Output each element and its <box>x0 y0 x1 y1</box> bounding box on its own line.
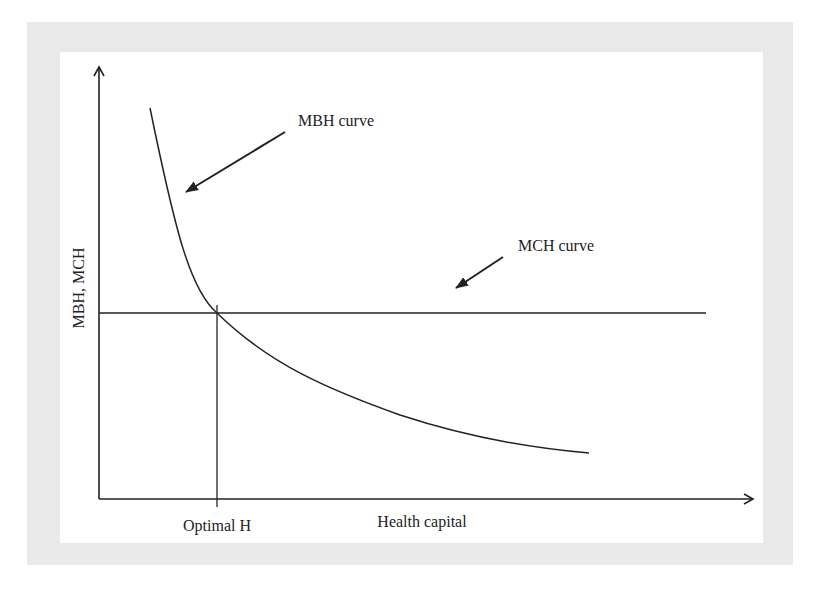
optimal-h-label: Optimal H <box>183 517 251 535</box>
chart-svg: MBH curve MCH curve MBH, MCH Optimal H H… <box>0 0 821 595</box>
mbh-label: MBH curve <box>298 112 374 129</box>
mch-label: MCH curve <box>518 237 594 254</box>
mbh-curve <box>150 108 589 453</box>
x-axis-label: Health capital <box>377 513 467 531</box>
y-axis-label: MBH, MCH <box>70 247 87 328</box>
mch-arrow <box>456 257 503 288</box>
mbh-arrow <box>186 132 285 192</box>
